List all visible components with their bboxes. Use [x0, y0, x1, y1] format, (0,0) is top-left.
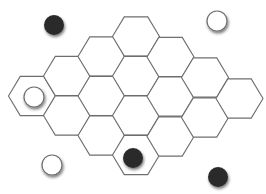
black-piece-black-bottom-right[interactable]: [208, 167, 228, 187]
white-piece-white-on-board-left[interactable]: [24, 87, 44, 107]
hex-game-board: [0, 0, 266, 194]
black-piece-black-on-board-bottom[interactable]: [123, 148, 143, 168]
white-piece-white-bottom-left[interactable]: [42, 155, 62, 175]
black-piece-black-top-left[interactable]: [44, 15, 64, 35]
white-piece-white-top-right[interactable]: [207, 11, 227, 31]
